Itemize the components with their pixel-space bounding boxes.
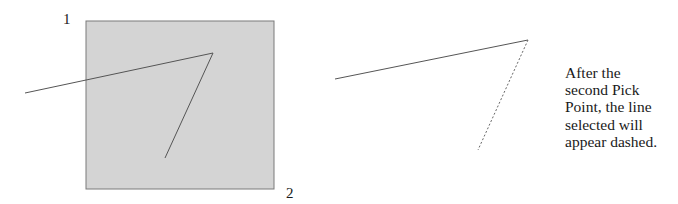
caption-line: appear dashed. — [565, 133, 677, 150]
caption-line: Point, the line — [565, 98, 677, 115]
pick-point-label-1: 1 — [63, 12, 71, 27]
caption-text: After the second Pick Point, the line se… — [565, 64, 677, 150]
pick-point-label-2: 2 — [286, 186, 294, 201]
caption-line: second Pick — [565, 81, 677, 98]
caption-line: After the — [565, 64, 677, 81]
selection-box — [86, 21, 274, 189]
caption-line: selected will — [565, 116, 677, 133]
dashed-line-segment — [478, 40, 528, 150]
solid-line-segment — [335, 40, 528, 79]
